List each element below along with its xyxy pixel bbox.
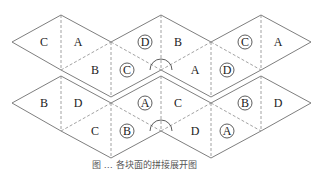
face-label: C xyxy=(123,63,131,77)
face-label: C xyxy=(174,96,182,110)
face-label: B xyxy=(123,124,131,138)
figure-caption: 图 … 各块面的拼接展开图 xyxy=(92,159,197,170)
face-label: B xyxy=(174,35,182,49)
bottom-net xyxy=(12,76,311,158)
face-label: D xyxy=(74,96,83,110)
face-label: D xyxy=(223,63,232,77)
face-label: A xyxy=(274,35,283,49)
face-label: C xyxy=(40,35,48,49)
face-label: B xyxy=(241,96,249,110)
face-label: A xyxy=(223,124,232,138)
face-label: A xyxy=(74,35,83,49)
face-label: A xyxy=(141,96,150,110)
face-label: C xyxy=(91,124,99,138)
net-diagram: CABCDBADCABDCBACDABD 图 … 各块面的拼接展开图 xyxy=(0,0,321,171)
face-label: C xyxy=(241,35,249,49)
face-label: D xyxy=(141,35,150,49)
face-label: D xyxy=(191,124,200,138)
face-label: D xyxy=(274,96,283,110)
face-label: B xyxy=(91,63,99,77)
face-label: B xyxy=(40,96,48,110)
bottom-net-outline xyxy=(12,76,311,158)
face-label: A xyxy=(191,63,200,77)
